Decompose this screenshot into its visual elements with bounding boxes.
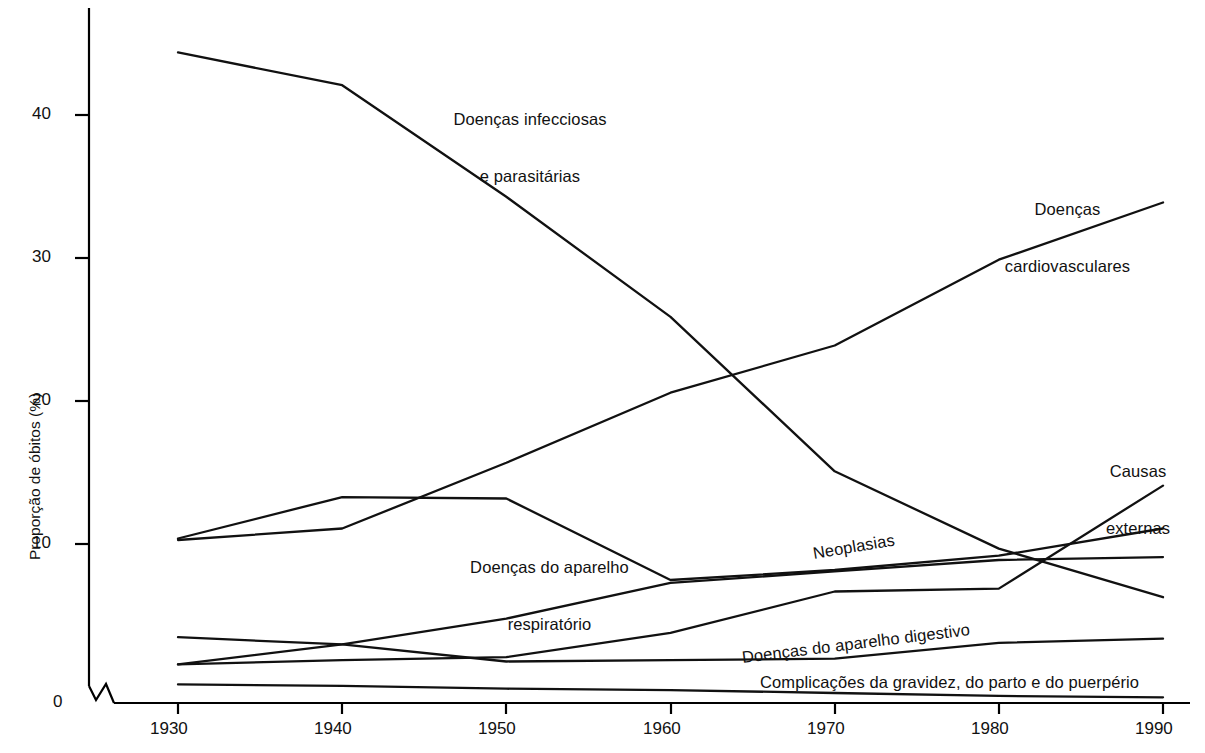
series-label-infecciosas-line1: Doenças infecciosas bbox=[405, 110, 655, 129]
series-label-respiratorio-line1: Doenças do aparelho bbox=[432, 558, 667, 577]
series-label-cardiovasculares-line2: cardiovasculares bbox=[975, 257, 1160, 276]
series-label-causas-externas-line1: Causas bbox=[1078, 462, 1198, 481]
series-label-respiratorio: Doenças do aparelho respiratório bbox=[432, 520, 667, 672]
x-tick-label-1960: 1960 bbox=[643, 719, 681, 739]
series-line-neoplasias bbox=[178, 557, 1163, 664]
x-tick-label-1970: 1970 bbox=[807, 719, 845, 739]
x-tick-label-1950: 1950 bbox=[478, 719, 516, 739]
x-tick-label-1930: 1930 bbox=[150, 719, 188, 739]
y-tick-label-10: 10 bbox=[32, 533, 51, 553]
x-axis-ticks bbox=[178, 703, 1163, 714]
series-line-causas-externas bbox=[178, 486, 1163, 665]
series-label-gravidez: Complicações da gravidez, do parto e do … bbox=[760, 673, 1139, 692]
series-label-cardiovasculares-line1: Doenças bbox=[975, 200, 1160, 219]
x-tick-label-1940: 1940 bbox=[314, 719, 352, 739]
x-tick-label-1980: 1980 bbox=[971, 719, 1009, 739]
y-tick-label-40: 40 bbox=[32, 104, 51, 124]
x-tick-label-1990: 1990 bbox=[1135, 719, 1173, 739]
y-tick-label-30: 30 bbox=[32, 247, 51, 267]
series-label-infecciosas-line2: e parasitárias bbox=[405, 167, 655, 186]
series-line-respiratorio bbox=[178, 497, 1163, 580]
series-label-cardiovasculares: Doenças cardiovasculares bbox=[975, 162, 1160, 314]
series-label-respiratorio-line2: respiratório bbox=[432, 615, 667, 634]
y-tick-label-20: 20 bbox=[32, 390, 51, 410]
series-label-causas-externas-line2: externas bbox=[1078, 519, 1198, 538]
axis-break-zigzag bbox=[89, 684, 114, 703]
series-label-infecciosas: Doenças infecciosas e parasitárias bbox=[405, 72, 655, 224]
y-axis-ticks bbox=[75, 115, 89, 544]
series-label-causas-externas: Causas externas bbox=[1078, 424, 1198, 576]
y-tick-label-0: 0 bbox=[53, 692, 62, 712]
series-line-infecciosas bbox=[178, 52, 1163, 597]
chart-canvas: Proporção de óbitos (%) 40 30 20 10 0 19… bbox=[0, 0, 1205, 753]
series-line-digestivo bbox=[178, 637, 1163, 661]
